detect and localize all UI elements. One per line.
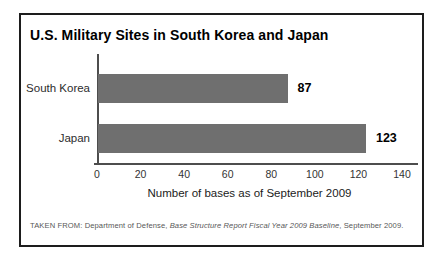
x-tick-label: 100 [293,168,337,180]
value-label: 123 [376,131,397,145]
category-label: South Korea [15,82,90,94]
value-label: 87 [298,81,312,95]
x-tick-label: 20 [119,168,163,180]
figure: U.S. Military Sites in South Korea and J… [0,0,442,259]
x-tick-label: 60 [206,168,250,180]
x-tick-label: 0 [75,168,119,180]
bar-japan [98,124,366,153]
x-tick-label: 80 [249,168,293,180]
source-note-title: Base Structure Report Fiscal Year 2009 B… [170,221,340,230]
category-label: Japan [15,132,90,144]
x-tick-label: 40 [162,168,206,180]
x-tick-label: 120 [336,168,380,180]
source-note-prefix: TAKEN FROM: Department of Defense, [30,221,170,230]
bar-south-korea [98,74,288,103]
source-note-suffix: , September 2009. [339,221,403,230]
x-axis-title: Number of bases as of September 2009 [97,187,402,199]
x-tick-label: 140 [380,168,424,180]
x-axis-line [94,163,418,165]
source-note: TAKEN FROM: Department of Defense, Base … [30,221,418,230]
